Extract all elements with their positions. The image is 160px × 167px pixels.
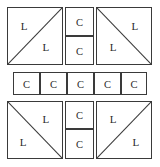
cell-label-C: C — [104, 78, 111, 89]
block-label-L: L — [131, 21, 138, 32]
diagonal-line-bottom-left-to-top-right — [97, 102, 151, 158]
cell-label-C: C — [130, 78, 137, 89]
bottom-center-cell-lower[interactable]: C — [65, 129, 94, 159]
diagonal-line-bottom-left-to-top-right — [8, 8, 62, 64]
block-label-L: L — [110, 42, 117, 53]
middle-strip-cell[interactable]: C — [121, 72, 147, 95]
block-label-L: L — [42, 42, 49, 53]
bottom-center-cell-upper[interactable]: C — [65, 101, 94, 129]
middle-strip-cell[interactable]: C — [13, 72, 40, 95]
cell-label-C: C — [76, 45, 83, 56]
cell-label-C: C — [76, 139, 83, 150]
block-label-L: L — [42, 113, 49, 124]
cell-label-C: C — [76, 16, 83, 27]
block-label-L: L — [20, 137, 27, 148]
top-center-cell-upper[interactable]: C — [65, 7, 94, 36]
cell-label-C: C — [76, 110, 83, 121]
top-right-block[interactable]: L L — [96, 7, 152, 65]
diagonal-line-top-left-to-bottom-right — [8, 102, 62, 158]
quilt-layout-diagram: L L C C L L C C C C C — [0, 0, 160, 167]
diagonal-line-top-left-to-bottom-right — [97, 8, 151, 64]
bottom-right-block[interactable]: L L — [96, 101, 152, 159]
top-center-cell-lower[interactable]: C — [65, 36, 94, 65]
top-left-block[interactable]: L L — [7, 7, 63, 65]
block-label-L: L — [21, 21, 28, 32]
cell-label-C: C — [23, 78, 30, 89]
middle-strip-cell[interactable]: C — [40, 72, 67, 95]
middle-strip-cell[interactable]: C — [67, 72, 94, 95]
cell-label-C: C — [77, 78, 84, 89]
middle-strip-cell[interactable]: C — [94, 72, 121, 95]
block-label-L: L — [110, 113, 117, 124]
bottom-left-block[interactable]: L L — [7, 101, 63, 159]
cell-label-C: C — [50, 78, 57, 89]
block-label-L: L — [133, 137, 140, 148]
